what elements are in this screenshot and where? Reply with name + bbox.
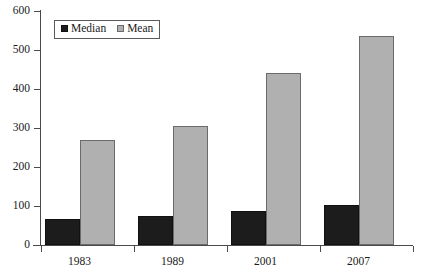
y-axis-tick (34, 245, 41, 246)
bar-median-1983 (45, 219, 80, 245)
x-axis-tick-label: 2001 (236, 256, 296, 268)
legend-label: Mean (127, 23, 153, 35)
bar-mean-2001 (266, 73, 301, 245)
y-axis-tick-label: 300 (0, 122, 30, 134)
x-axis-line (33, 245, 413, 246)
bar-median-1989 (138, 216, 173, 245)
legend-label: Median (71, 23, 106, 35)
y-axis-tick (34, 50, 41, 51)
plot-area (41, 11, 413, 245)
bar-mean-1983 (80, 140, 115, 245)
y-axis-tick-label: 600 (0, 5, 30, 17)
x-axis-tick (227, 246, 228, 252)
y-axis-tick-label: 500 (0, 44, 30, 56)
bar-mean-1989 (173, 126, 208, 245)
y-axis-tick (34, 11, 41, 12)
x-axis-tick (41, 246, 42, 252)
x-axis-tick (134, 246, 135, 252)
y-axis-tick-label: 200 (0, 161, 30, 173)
y-axis-tick-label: 100 (0, 200, 30, 212)
y-axis-tick (34, 167, 41, 168)
bar-chart: 0100200300400500600 1983198920012007 Med… (0, 0, 421, 272)
bar-mean-2007 (359, 36, 394, 245)
legend-entry-median: Median (61, 23, 106, 35)
x-axis-tick-label: 1989 (143, 256, 203, 268)
legend-swatch-median-icon (61, 25, 68, 32)
bar-median-2007 (324, 205, 359, 245)
x-axis-tick-label: 1983 (50, 256, 110, 268)
legend-entry-mean: Mean (117, 23, 153, 35)
chart-legend: MedianMean (54, 20, 160, 39)
y-axis-tick (34, 89, 41, 90)
y-axis-tick (34, 128, 41, 129)
x-axis-tick (320, 246, 321, 252)
y-axis-tick (34, 206, 41, 207)
y-axis-tick-label: 0 (0, 239, 30, 251)
x-axis-tick (413, 246, 414, 252)
y-axis-tick-label: 400 (0, 83, 30, 95)
bar-median-2001 (231, 211, 266, 245)
x-axis-tick-label: 2007 (329, 256, 389, 268)
legend-swatch-mean-icon (117, 25, 124, 32)
